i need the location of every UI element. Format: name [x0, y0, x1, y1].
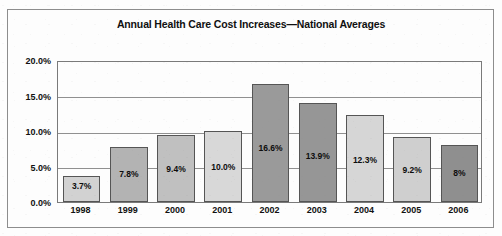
y-axis-tick-label: 5.0% [30, 163, 51, 173]
y-axis-tick-labels: 0.0%5.0%10.0%15.0%20.0% [0, 61, 55, 203]
y-axis-tick-label: 20.0% [25, 56, 51, 66]
y-axis-tick-label: 10.0% [25, 127, 51, 137]
chart-title: Annual Health Care Cost Increases—Nation… [0, 18, 502, 30]
bar-value-label: 16.6% [252, 143, 290, 153]
x-axis-tick-labels: 199819992000200120022003200420052006 [57, 205, 482, 221]
x-axis-tick-label: 2000 [151, 205, 198, 215]
bar-group: 13.9% [299, 62, 337, 202]
bar-group: 3.7% [63, 62, 101, 202]
x-axis-tick-label: 2006 [435, 205, 482, 215]
bar-group: 9.4% [157, 62, 195, 202]
bar-value-label: 8% [441, 168, 479, 178]
x-axis-tick-label: 2002 [246, 205, 293, 215]
bar-group: 12.3% [346, 62, 384, 202]
bar-value-label: 13.9% [299, 151, 337, 161]
bar-group: 10.0% [204, 62, 242, 202]
x-axis-tick-label: 1999 [104, 205, 151, 215]
bar-value-label: 9.2% [393, 165, 431, 175]
x-axis-tick-label: 2004 [340, 205, 387, 215]
plot-area: 3.7%7.8%9.4%10.0%16.6%13.9%12.3%9.2%8% [57, 61, 482, 203]
bar-value-label: 7.8% [110, 169, 148, 179]
bar-value-label: 3.7% [63, 181, 101, 191]
bar-value-label: 10.0% [204, 162, 242, 172]
chart-figure: Annual Health Care Cost Increases—Nation… [0, 0, 502, 236]
bar-series: 3.7%7.8%9.4%10.0%16.6%13.9%12.3%9.2%8% [58, 62, 481, 202]
y-axis-tick-label: 15.0% [25, 92, 51, 102]
bar-value-label: 9.4% [157, 164, 195, 174]
x-axis-tick-label: 1998 [57, 205, 104, 215]
bar-group: 16.6% [252, 62, 290, 202]
bar-group: 8% [441, 62, 479, 202]
bar-value-label: 12.3% [346, 155, 384, 165]
y-axis-tick-label: 0.0% [30, 198, 51, 208]
x-axis-tick-label: 2005 [388, 205, 435, 215]
x-axis-tick-label: 2001 [199, 205, 246, 215]
x-axis-tick-label: 2003 [293, 205, 340, 215]
bar-group: 9.2% [393, 62, 431, 202]
bar-group: 7.8% [110, 62, 148, 202]
